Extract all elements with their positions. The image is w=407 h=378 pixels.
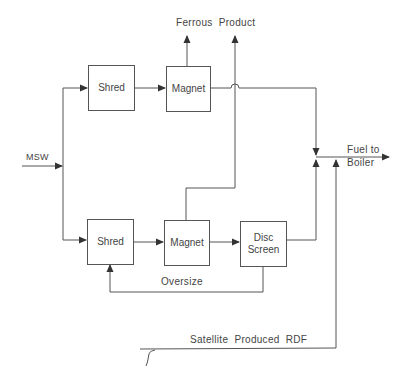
magnet-top-label: Magnet [172, 83, 205, 95]
disc-screen-label-line2: Screen [248, 244, 280, 256]
flow-lines [0, 0, 407, 378]
disc-screen-label-line1: Disc [254, 232, 273, 244]
shred-top-label: Shred [98, 82, 125, 94]
magnet-bottom-label: Magnet [170, 237, 203, 249]
ferrous-product-label: Ferrous Product [176, 17, 255, 28]
oversize-label: Oversize [161, 276, 203, 287]
fuel-to-boiler-label-line2: Boiler [347, 157, 374, 168]
fuel-to-boiler-label-line1: Fuel to [347, 144, 380, 155]
msw-label: MSW [26, 152, 49, 162]
shred-bottom-label: Shred [97, 236, 124, 248]
magnet-bottom-box: Magnet [164, 220, 210, 266]
magnet-top-box: Magnet [166, 66, 211, 112]
shred-bottom-box: Shred [87, 219, 134, 265]
shred-top-box: Shred [88, 65, 135, 111]
disc-screen-box: Disc Screen [240, 221, 287, 267]
satellite-rdf-label: Satellite Produced RDF [190, 334, 307, 345]
